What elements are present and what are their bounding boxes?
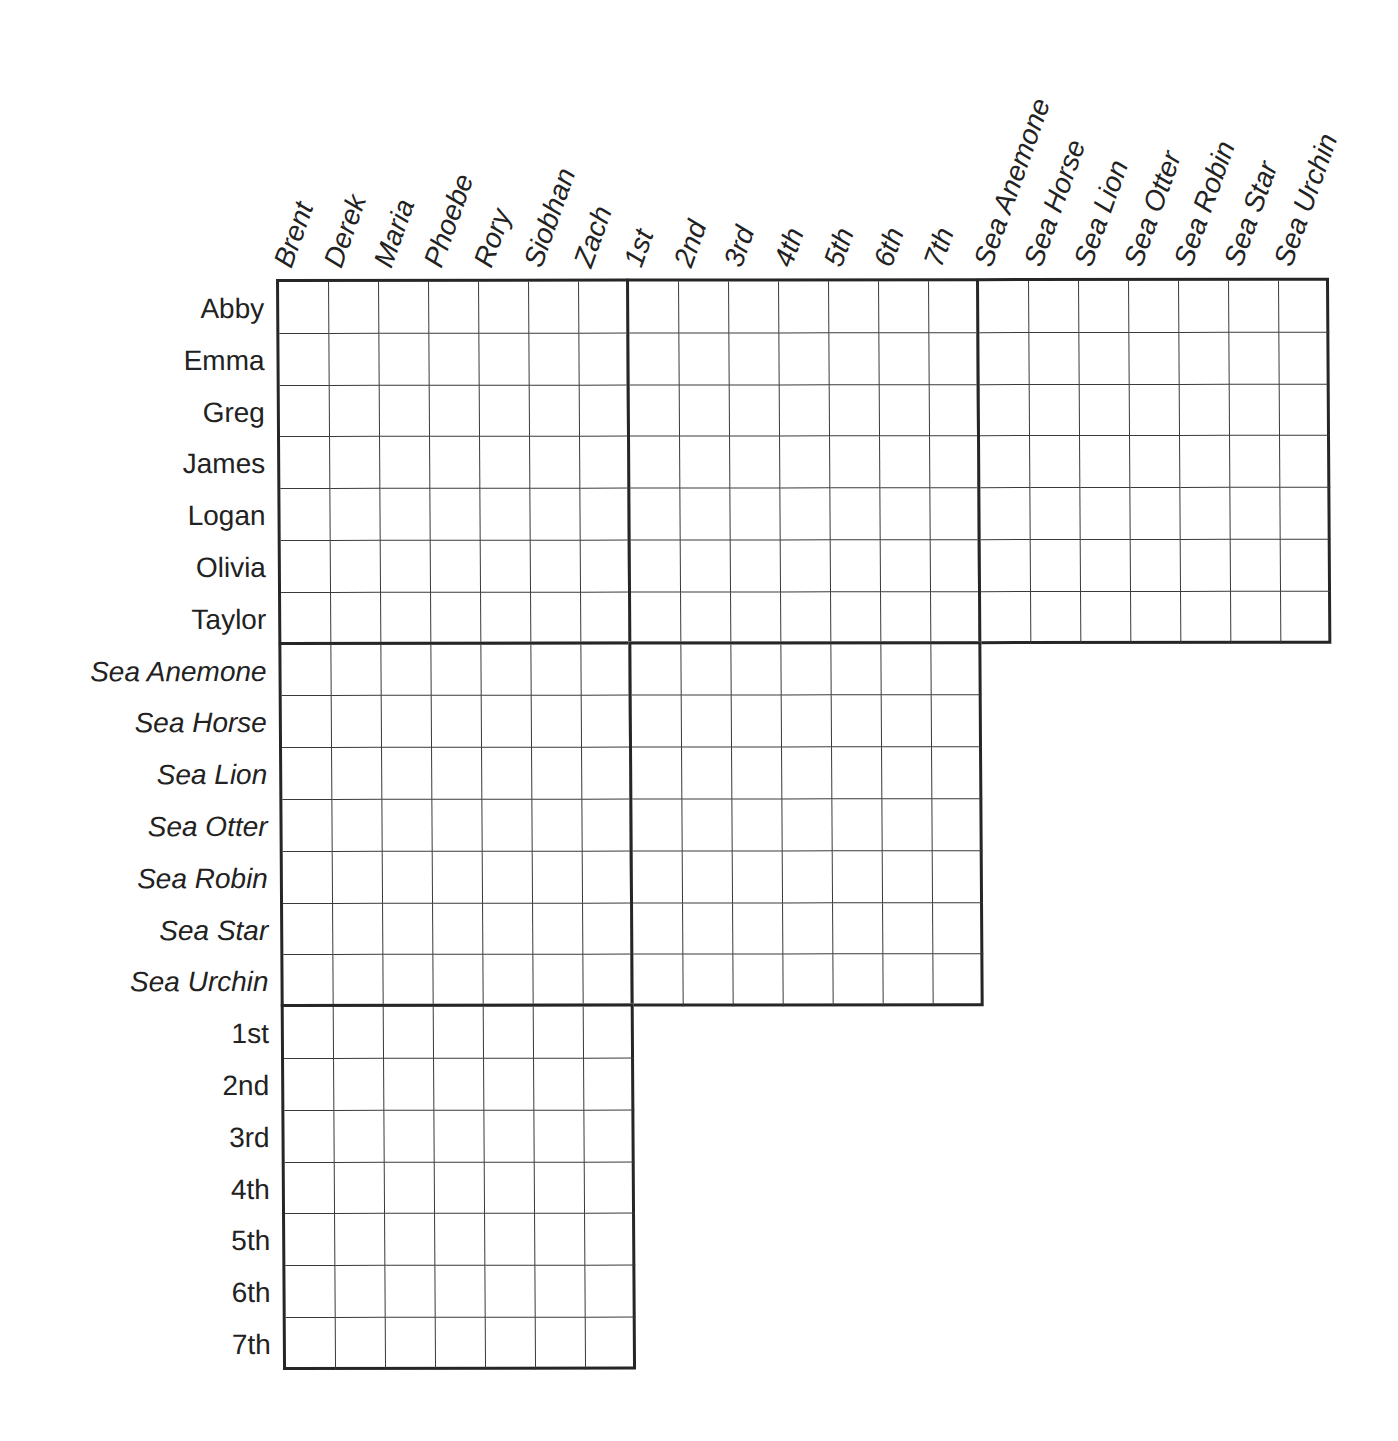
grid-cell-6th-phoebe[interactable] (435, 1266, 485, 1318)
grid-cell-logan-sea-otter[interactable] (1130, 488, 1180, 540)
grid-cell-sea-otter-6th[interactable] (882, 799, 932, 851)
grid-cell-james-brent[interactable] (280, 437, 330, 489)
grid-cell-sea-urchin-derek[interactable] (333, 955, 383, 1007)
grid-cell-emma-sea-anemone[interactable] (979, 333, 1029, 385)
grid-cell-logan-sea-robin[interactable] (1180, 488, 1230, 540)
grid-cell-sea-star-siobhan[interactable] (533, 903, 583, 955)
grid-cell-sea-anemone-1st[interactable] (631, 644, 681, 696)
grid-cell-olivia-sea-horse[interactable] (1031, 540, 1081, 592)
grid-cell-sea-urchin-4th[interactable] (783, 955, 833, 1007)
grid-cell-sea-star-4th[interactable] (783, 903, 833, 955)
grid-cell-greg-siobhan[interactable] (530, 385, 580, 437)
grid-cell-olivia-maria[interactable] (381, 541, 431, 593)
grid-cell-sea-otter-zach[interactable] (582, 800, 632, 852)
grid-cell-sea-urchin-maria[interactable] (383, 955, 433, 1007)
grid-cell-greg-brent[interactable] (280, 386, 330, 438)
grid-cell-taylor-brent[interactable] (281, 593, 331, 645)
grid-cell-2nd-brent[interactable] (284, 1059, 334, 1111)
grid-cell-abby-6th[interactable] (879, 281, 929, 333)
grid-cell-sea-otter-1st[interactable] (632, 799, 682, 851)
grid-cell-sea-lion-rory[interactable] (482, 748, 532, 800)
grid-cell-abby-brent[interactable] (279, 282, 329, 334)
grid-cell-james-sea-horse[interactable] (1030, 436, 1080, 488)
grid-cell-sea-star-maria[interactable] (383, 903, 433, 955)
grid-cell-3rd-phoebe[interactable] (434, 1111, 484, 1163)
grid-cell-4th-phoebe[interactable] (435, 1162, 485, 1214)
grid-cell-logan-siobhan[interactable] (530, 489, 580, 541)
grid-cell-2nd-maria[interactable] (384, 1059, 434, 1111)
grid-cell-logan-maria[interactable] (380, 489, 430, 541)
grid-cell-logan-sea-urchin[interactable] (1280, 488, 1330, 540)
grid-cell-james-sea-robin[interactable] (1180, 436, 1230, 488)
grid-cell-emma-brent[interactable] (279, 334, 329, 386)
grid-cell-james-zach[interactable] (580, 437, 630, 489)
grid-cell-abby-sea-lion[interactable] (1079, 281, 1129, 333)
grid-cell-sea-horse-siobhan[interactable] (532, 696, 582, 748)
grid-cell-1st-maria[interactable] (384, 1007, 434, 1059)
grid-cell-7th-phoebe[interactable] (436, 1318, 486, 1370)
grid-cell-greg-sea-robin[interactable] (1180, 384, 1230, 436)
grid-cell-sea-star-1st[interactable] (633, 903, 683, 955)
grid-cell-sea-horse-maria[interactable] (382, 696, 432, 748)
grid-cell-sea-otter-siobhan[interactable] (532, 800, 582, 852)
grid-cell-4th-zach[interactable] (585, 1162, 635, 1214)
grid-cell-abby-4th[interactable] (779, 281, 829, 333)
grid-cell-sea-robin-4th[interactable] (783, 851, 833, 903)
grid-cell-logan-6th[interactable] (880, 488, 930, 540)
grid-cell-abby-sea-anemone[interactable] (979, 281, 1029, 333)
grid-cell-emma-maria[interactable] (379, 334, 429, 386)
grid-cell-sea-lion-6th[interactable] (882, 747, 932, 799)
grid-cell-3rd-zach[interactable] (584, 1110, 634, 1162)
grid-cell-olivia-brent[interactable] (281, 541, 331, 593)
grid-cell-emma-zach[interactable] (579, 333, 629, 385)
grid-cell-sea-robin-1st[interactable] (633, 851, 683, 903)
grid-cell-sea-urchin-7th[interactable] (933, 955, 983, 1007)
grid-cell-sea-star-5th[interactable] (833, 903, 883, 955)
grid-cell-emma-7th[interactable] (929, 333, 979, 385)
grid-cell-emma-2nd[interactable] (679, 333, 729, 385)
grid-cell-james-sea-anemone[interactable] (980, 436, 1030, 488)
grid-cell-james-maria[interactable] (380, 437, 430, 489)
grid-cell-2nd-rory[interactable] (484, 1059, 534, 1111)
grid-cell-sea-star-3rd[interactable] (733, 903, 783, 955)
grid-cell-greg-sea-lion[interactable] (1080, 385, 1130, 437)
grid-cell-james-2nd[interactable] (680, 437, 730, 489)
grid-cell-1st-phoebe[interactable] (434, 1007, 484, 1059)
grid-cell-sea-urchin-siobhan[interactable] (533, 955, 583, 1007)
grid-cell-sea-urchin-3rd[interactable] (733, 955, 783, 1007)
grid-cell-sea-urchin-1st[interactable] (633, 955, 683, 1007)
grid-cell-taylor-sea-urchin[interactable] (1281, 592, 1331, 644)
grid-cell-james-3rd[interactable] (730, 437, 780, 489)
grid-cell-taylor-siobhan[interactable] (531, 592, 581, 644)
grid-cell-taylor-3rd[interactable] (731, 592, 781, 644)
grid-cell-4th-rory[interactable] (485, 1162, 535, 1214)
grid-cell-greg-phoebe[interactable] (430, 385, 480, 437)
grid-cell-olivia-sea-star[interactable] (1231, 540, 1281, 592)
grid-cell-emma-3rd[interactable] (729, 333, 779, 385)
grid-cell-logan-sea-star[interactable] (1230, 488, 1280, 540)
grid-cell-olivia-siobhan[interactable] (531, 541, 581, 593)
grid-cell-greg-sea-otter[interactable] (1130, 384, 1180, 436)
grid-cell-7th-maria[interactable] (386, 1318, 436, 1370)
grid-cell-olivia-3rd[interactable] (731, 540, 781, 592)
grid-cell-sea-lion-5th[interactable] (832, 747, 882, 799)
grid-cell-abby-7th[interactable] (929, 281, 979, 333)
grid-cell-1st-rory[interactable] (484, 1007, 534, 1059)
grid-cell-3rd-siobhan[interactable] (534, 1110, 584, 1162)
grid-cell-6th-zach[interactable] (585, 1266, 635, 1318)
grid-cell-james-sea-lion[interactable] (1080, 436, 1130, 488)
grid-cell-sea-horse-rory[interactable] (482, 696, 532, 748)
grid-cell-emma-sea-urchin[interactable] (1279, 333, 1329, 385)
grid-cell-james-derek[interactable] (330, 437, 380, 489)
grid-cell-sea-anemone-phoebe[interactable] (431, 644, 481, 696)
grid-cell-olivia-sea-anemone[interactable] (981, 540, 1031, 592)
grid-cell-james-siobhan[interactable] (530, 437, 580, 489)
grid-cell-3rd-derek[interactable] (334, 1111, 384, 1163)
grid-cell-sea-anemone-3rd[interactable] (731, 644, 781, 696)
grid-cell-james-rory[interactable] (480, 437, 530, 489)
grid-cell-taylor-maria[interactable] (381, 593, 431, 645)
grid-cell-logan-sea-horse[interactable] (1030, 488, 1080, 540)
grid-cell-sea-otter-brent[interactable] (282, 800, 332, 852)
grid-cell-abby-sea-horse[interactable] (1029, 281, 1079, 333)
grid-cell-sea-horse-7th[interactable] (932, 696, 982, 748)
